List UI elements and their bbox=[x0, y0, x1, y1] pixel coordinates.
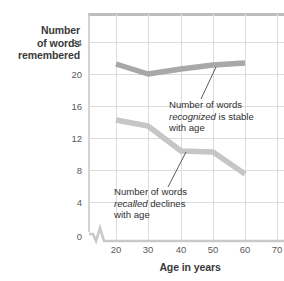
annotation-recognized-line-3: with age bbox=[169, 122, 254, 134]
annotation-recognized-line-2-rest: is stable bbox=[216, 111, 254, 122]
annotation-recognized-line-1: Number of words bbox=[169, 99, 254, 111]
x-tick-label-30: 30 bbox=[136, 244, 160, 255]
annotation-recognized: Number of words recognized is stable wit… bbox=[169, 99, 254, 134]
annotation-recalled-line-1: Number of words bbox=[114, 186, 187, 198]
y-tick-label-12: 12 bbox=[60, 133, 82, 144]
annotation-recalled-line-2: recalled declines bbox=[114, 198, 187, 210]
y-tick-label-4: 4 bbox=[60, 197, 82, 208]
annotation-recalled-line-2-rest: declines bbox=[148, 198, 186, 209]
y-tick-label-0: 0 bbox=[60, 231, 82, 242]
x-tick-label-70: 70 bbox=[265, 244, 284, 255]
annotation-recalled: Number of words recalled declines with a… bbox=[114, 186, 187, 221]
x-axis-title: Age in years bbox=[120, 261, 260, 273]
y-tick-label-20: 20 bbox=[60, 69, 82, 80]
x-axis-line-with-break bbox=[89, 228, 284, 241]
annotation-recognized-emphasis: recognized bbox=[169, 111, 216, 122]
y-tick-label-24: 24 bbox=[60, 37, 82, 48]
y-tick-label-8: 8 bbox=[60, 165, 82, 176]
series-line-recognized bbox=[116, 63, 245, 74]
x-tick-label-60: 60 bbox=[233, 244, 257, 255]
x-tick-label-20: 20 bbox=[104, 244, 128, 255]
chart-canvas bbox=[0, 0, 284, 281]
leader-line-recalled bbox=[168, 152, 186, 187]
annotation-recalled-line-3: with age bbox=[114, 209, 187, 221]
annotation-recalled-emphasis: recalled bbox=[114, 198, 148, 209]
y-tick-label-16: 16 bbox=[60, 101, 82, 112]
chart-figure: Number of words remembered bbox=[0, 0, 284, 281]
annotation-recognized-line-2: recognized is stable bbox=[169, 111, 254, 123]
x-tick-label-40: 40 bbox=[169, 244, 193, 255]
x-tick-label-50: 50 bbox=[201, 244, 225, 255]
